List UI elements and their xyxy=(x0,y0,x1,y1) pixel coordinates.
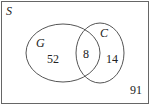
set-c-label: C xyxy=(100,26,109,40)
g-only-count: 52 xyxy=(47,52,59,66)
c-only-count: 14 xyxy=(106,52,118,66)
outside-count: 91 xyxy=(130,83,142,97)
universe-label: S xyxy=(6,4,12,18)
intersection-count: 8 xyxy=(83,47,89,61)
set-g-label: G xyxy=(36,36,45,50)
venn-diagram: S G C 52 8 14 91 xyxy=(0,0,150,106)
universe-rectangle xyxy=(2,2,149,104)
